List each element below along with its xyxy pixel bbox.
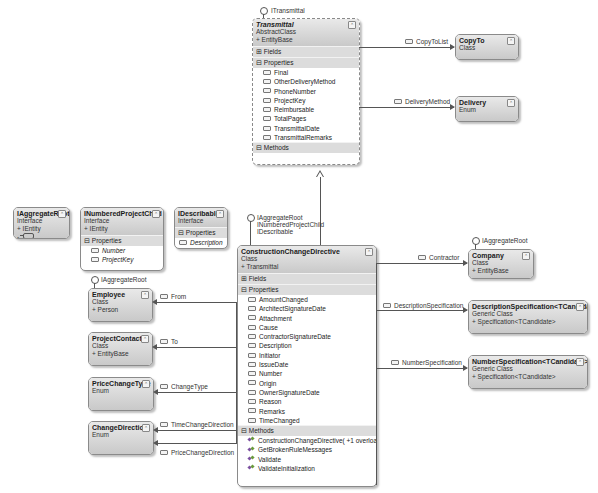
arrowhead-icon xyxy=(463,365,468,371)
class-header[interactable]: ChangeDirection Enum ⌃ xyxy=(89,422,153,454)
projectcontact-class-box[interactable]: ProjectContact Class + EntityBase ⌃ xyxy=(88,332,153,366)
pricechangetype-enum-box[interactable]: PriceChangeType Enum ⌃ xyxy=(88,377,154,411)
collapse-toggle-icon[interactable]: ⌃ xyxy=(141,335,149,343)
delivery-enum-box[interactable]: Delivery Enum ⌃ xyxy=(455,96,519,122)
collapse-toggle-icon[interactable]: ⌃ xyxy=(141,291,149,299)
class-header[interactable]: NumberSpecification<TCandidate> Generic … xyxy=(469,356,587,388)
property-item[interactable]: Number xyxy=(238,369,376,378)
class-header[interactable]: Employee Class + Person ⌃ xyxy=(89,289,152,321)
property-item[interactable]: OwnerSignatureDate xyxy=(238,388,376,397)
properties-section[interactable]: ⊟ Properties xyxy=(81,235,163,246)
properties-section[interactable]: ⊟ Properties xyxy=(175,227,227,238)
association-label: CopyToList xyxy=(405,38,448,45)
property-item[interactable]: ArchitectSignatureDate xyxy=(238,304,376,313)
collapse-toggle-icon[interactable]: ⌃ xyxy=(365,248,373,256)
idescribable-interface-box[interactable]: IDescribable Interface ⌃ ⊟ Properties De… xyxy=(174,207,228,249)
copyto-class-box[interactable]: CopyTo Class ⌃ xyxy=(455,34,519,60)
property-item[interactable]: TimeChanged xyxy=(238,416,376,425)
method-item[interactable]: ValidateInitialization xyxy=(238,464,376,473)
property-name: TransmittalRemarks xyxy=(274,134,332,141)
property-item[interactable]: Final xyxy=(253,68,359,77)
class-base: + EntityBase xyxy=(472,267,530,275)
property-item[interactable]: Attachment xyxy=(238,314,376,323)
collapse-toggle-icon[interactable]: ⌃ xyxy=(576,358,584,366)
property-item[interactable]: TotalPages xyxy=(253,114,359,123)
property-item[interactable]: IssueDate xyxy=(238,360,376,369)
constructionchangedirective-class-box[interactable]: ConstructionChangeDirective Class + Tran… xyxy=(237,245,377,487)
collapse-toggle-icon[interactable]: ⌃ xyxy=(142,380,150,388)
numberspecification-class-box[interactable]: NumberSpecification<TCandidate> Generic … xyxy=(468,355,588,389)
association-label: PriceChangeDirection xyxy=(160,449,234,456)
property-item[interactable]: Origin xyxy=(238,379,376,388)
collapse-toggle-icon[interactable]: ⌃ xyxy=(522,252,530,260)
property-item[interactable]: ProjectKey xyxy=(81,255,163,264)
method-item[interactable]: ConstructionChangeDirective( +1 overload… xyxy=(238,436,376,445)
property-name: IssueDate xyxy=(259,361,288,368)
class-kind: Interface xyxy=(17,217,66,225)
association-name: From xyxy=(171,293,186,300)
method-item[interactable]: Validate xyxy=(238,455,376,464)
property-item[interactable]: Number xyxy=(81,246,163,255)
company-class-box[interactable]: Company Class + EntityBase ⌃ xyxy=(468,249,534,279)
property-item[interactable]: Cause xyxy=(238,323,376,332)
collapse-toggle-icon[interactable]: ⌃ xyxy=(507,99,515,107)
inumberedprojectchild-interface-box[interactable]: INumberedProjectChild Interface + IEntit… xyxy=(80,207,164,271)
association-label: To xyxy=(160,338,178,345)
property-item[interactable]: Description xyxy=(175,238,227,247)
collapse-toggle-icon[interactable]: ⌃ xyxy=(507,37,515,45)
method-icon xyxy=(248,447,255,453)
methods-label: Methods xyxy=(264,144,289,151)
property-item[interactable]: TransmittalRemarks xyxy=(253,133,359,142)
class-header[interactable]: ProjectContact Class + EntityBase ⌃ xyxy=(89,333,152,365)
iaggregateroot-interface-box[interactable]: IAggregateRoot Interface + IEntity - ⌃ xyxy=(13,207,70,239)
property-item[interactable]: PhoneNumber xyxy=(253,87,359,96)
class-header[interactable]: IAggregateRoot Interface + IEntity - ⌃ xyxy=(14,208,69,238)
class-header[interactable]: CopyTo Class ⌃ xyxy=(456,35,518,59)
collapse-toggle-icon[interactable]: ⌃ xyxy=(216,210,224,218)
collapse-toggle-icon[interactable]: ⌃ xyxy=(576,303,584,311)
descriptionspecification-class-box[interactable]: DescriptionSpecification<TCandidate> Gen… xyxy=(468,300,588,334)
class-header[interactable]: ConstructionChangeDirective Class + Tran… xyxy=(238,246,376,273)
property-item[interactable]: TransmittalDate xyxy=(253,124,359,133)
methods-section[interactable]: ⊟ Methods xyxy=(238,425,376,436)
class-header[interactable]: Company Class + EntityBase ⌃ xyxy=(469,250,533,278)
association-line xyxy=(376,310,467,311)
class-kind: Enum xyxy=(92,431,150,439)
property-name: Attachment xyxy=(259,315,292,322)
collapse-toggle-icon[interactable]: ⌃ xyxy=(58,210,66,218)
class-header[interactable]: Delivery Enum ⌃ xyxy=(456,97,518,121)
property-item[interactable]: OtherDeliveryMethod xyxy=(253,77,359,86)
transmittal-class-box[interactable]: Transmittal AbstractClass + EntityBase ⌃… xyxy=(252,18,360,165)
collapse-toggle-icon[interactable]: ⌃ xyxy=(142,424,150,432)
property-name: Origin xyxy=(259,380,276,387)
property-item[interactable]: Reimbursable xyxy=(253,105,359,114)
fields-section[interactable]: ⊞ Fields xyxy=(238,273,376,284)
property-item[interactable]: ProjectKey xyxy=(253,96,359,105)
property-item[interactable]: Remarks xyxy=(238,407,376,416)
class-header[interactable]: IDescribable Interface ⌃ xyxy=(175,208,227,227)
interface-label: ITransmittal xyxy=(271,7,305,14)
methods-label: Methods xyxy=(249,427,274,434)
association-name: DeliveryMethod xyxy=(405,98,450,105)
property-item[interactable]: Initiator xyxy=(238,351,376,360)
fields-section[interactable]: ⊞ Fields xyxy=(253,46,359,57)
property-icon xyxy=(160,339,168,344)
class-header[interactable]: PriceChangeType Enum ⌃ xyxy=(89,378,153,410)
methods-section[interactable]: ⊟ Methods xyxy=(253,142,359,153)
property-item[interactable]: Reason xyxy=(238,397,376,406)
class-header[interactable]: INumberedProjectChild Interface + IEntit… xyxy=(81,208,163,235)
employee-class-box[interactable]: Employee Class + Person ⌃ xyxy=(88,288,153,322)
collapse-toggle-icon[interactable]: ⌃ xyxy=(152,210,160,218)
class-kind: Class xyxy=(472,259,530,267)
class-header[interactable]: DescriptionSpecification<TCandidate> Gen… xyxy=(469,301,587,333)
collapse-toggle-icon[interactable]: ⌃ xyxy=(348,21,356,29)
properties-section[interactable]: ⊟ Properties xyxy=(238,284,376,295)
property-item[interactable]: AmountChanged xyxy=(238,295,376,304)
changedirection-enum-box[interactable]: ChangeDirection Enum ⌃ xyxy=(88,421,154,455)
class-header[interactable]: Transmittal AbstractClass + EntityBase ⌃ xyxy=(253,19,359,46)
property-item[interactable]: ContractorSignatureDate xyxy=(238,332,376,341)
property-item[interactable]: Description xyxy=(238,341,376,350)
properties-section[interactable]: ⊟ Properties xyxy=(253,57,359,68)
method-item[interactable]: GetBrokenRuleMessages xyxy=(238,445,376,454)
class-name: NumberSpecification<TCandidate> xyxy=(472,358,584,365)
